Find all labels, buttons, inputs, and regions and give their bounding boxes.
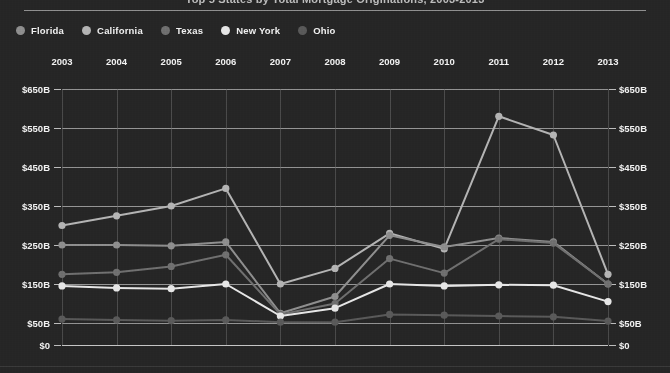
chart-plot-area [0, 0, 670, 373]
series-data-point[interactable] [604, 271, 611, 278]
series-data-point[interactable] [222, 316, 229, 323]
series-data-point[interactable] [441, 270, 448, 277]
series-data-point[interactable] [495, 236, 502, 243]
series-data-point[interactable] [58, 316, 65, 323]
series-data-point[interactable] [113, 269, 120, 276]
series-data-point[interactable] [386, 255, 393, 262]
series-data-point[interactable] [113, 316, 120, 323]
series-data-point[interactable] [277, 280, 284, 287]
series-data-point[interactable] [168, 263, 175, 270]
series-data-point[interactable] [168, 317, 175, 324]
chart-container: Top 5 States by Total Mortgage Originati… [0, 0, 670, 373]
series-data-point[interactable] [550, 131, 557, 138]
series-data-point[interactable] [113, 284, 120, 291]
chart-series-california [58, 113, 611, 288]
series-data-point[interactable] [550, 240, 557, 247]
series-data-point[interactable] [58, 271, 65, 278]
series-data-point[interactable] [386, 311, 393, 318]
series-data-point[interactable] [331, 319, 338, 326]
series-data-point[interactable] [386, 280, 393, 287]
series-data-point[interactable] [222, 280, 229, 287]
series-data-point[interactable] [58, 222, 65, 229]
series-data-point[interactable] [331, 293, 338, 300]
chart-series-ohio [58, 311, 611, 326]
series-data-point[interactable] [550, 282, 557, 289]
series-data-point[interactable] [441, 312, 448, 319]
series-data-point[interactable] [113, 241, 120, 248]
series-line [62, 116, 608, 284]
series-data-point[interactable] [331, 265, 338, 272]
series-data-point[interactable] [386, 232, 393, 239]
series-data-point[interactable] [277, 312, 284, 319]
series-data-point[interactable] [168, 285, 175, 292]
footer-divider [0, 366, 670, 367]
series-data-point[interactable] [604, 298, 611, 305]
series-data-point[interactable] [495, 281, 502, 288]
series-data-point[interactable] [222, 185, 229, 192]
series-data-point[interactable] [550, 313, 557, 320]
series-data-point[interactable] [168, 242, 175, 249]
series-data-point[interactable] [58, 241, 65, 248]
series-data-point[interactable] [222, 238, 229, 245]
series-data-point[interactable] [604, 280, 611, 287]
series-data-point[interactable] [277, 319, 284, 326]
series-data-point[interactable] [441, 243, 448, 250]
series-data-point[interactable] [331, 305, 338, 312]
series-data-point[interactable] [113, 212, 120, 219]
series-data-point[interactable] [495, 312, 502, 319]
series-data-point[interactable] [441, 282, 448, 289]
series-data-point[interactable] [222, 251, 229, 258]
series-data-point[interactable] [58, 282, 65, 289]
series-data-point[interactable] [495, 113, 502, 120]
series-data-point[interactable] [604, 318, 611, 325]
series-data-point[interactable] [168, 202, 175, 209]
